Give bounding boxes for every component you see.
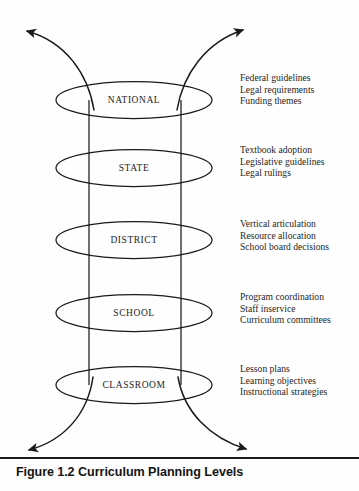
caption-number: Figure 1.2	[16, 465, 75, 479]
detail-line: Textbook adoption	[240, 144, 324, 156]
detail-line: Lesson plans	[240, 363, 327, 375]
detail-block-state: Textbook adoption Legislative guidelines…	[240, 144, 324, 179]
level-label-state: STATE	[119, 163, 150, 173]
level-label-classroom: CLASSROOM	[102, 380, 165, 390]
detail-block-national: Federal guidelines Legal requirements Fu…	[240, 72, 314, 107]
figure-caption: Figure 1.2 Curriculum Planning Levels	[16, 465, 243, 479]
figure-container: NATIONAL STATE DISTRICT SCHOOL CLASSROOM…	[0, 0, 359, 491]
arrow-top-right	[177, 30, 243, 110]
level-label-national: NATIONAL	[108, 95, 160, 105]
detail-line: Curriculum committees	[240, 314, 331, 326]
detail-line: Resource allocation	[240, 230, 329, 242]
arrow-top-left	[27, 31, 94, 110]
detail-line: Legal requirements	[240, 84, 314, 96]
detail-line: School board decisions	[240, 241, 329, 253]
detail-line: Legislative guidelines	[240, 156, 324, 168]
detail-line: Vertical articulation	[240, 218, 329, 230]
detail-block-school: Program coordination Staff inservice Cur…	[240, 291, 331, 326]
detail-line: Program coordination	[240, 291, 331, 303]
detail-line: Federal guidelines	[240, 72, 314, 84]
level-label-district: DISTRICT	[110, 235, 157, 245]
detail-line: Staff inservice	[240, 303, 331, 315]
arrow-bottom-left	[29, 377, 93, 450]
detail-line: Legal rulings	[240, 167, 324, 179]
detail-line: Funding themes	[240, 95, 314, 107]
detail-block-district: Vertical articulation Resource allocatio…	[240, 218, 329, 253]
detail-line: Learning objectives	[240, 375, 327, 387]
detail-block-classroom: Lesson plans Learning objectives Instruc…	[240, 363, 327, 398]
detail-line: Instructional strategies	[240, 386, 327, 398]
arrow-bottom-right	[178, 377, 246, 449]
level-label-school: SCHOOL	[113, 308, 154, 318]
caption-bar: Figure 1.2 Curriculum Planning Levels	[0, 457, 359, 491]
caption-title: Curriculum Planning Levels	[78, 465, 243, 479]
